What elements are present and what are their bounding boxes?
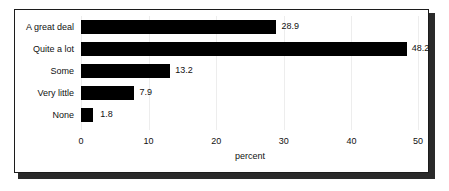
bar-row: 28.9 <box>81 16 419 38</box>
x-tick-label: 10 <box>144 136 154 146</box>
category-label: Some <box>0 64 74 78</box>
x-axis: 0 10 20 30 40 50 percent <box>81 130 419 160</box>
category-axis-labels: A great deal Quite a lot Some Very littl… <box>0 16 74 130</box>
bar <box>81 64 170 78</box>
bar-row: 1.8 <box>81 104 419 126</box>
bar <box>81 86 134 100</box>
bar <box>81 20 276 34</box>
bar-value-label: 28.9 <box>281 19 299 33</box>
x-tick-label: 40 <box>346 136 356 146</box>
bar-value-label: 1.8 <box>100 107 113 121</box>
bar-row: 48.2 <box>81 38 419 60</box>
bar-row: 13.2 <box>81 60 419 82</box>
category-label: A great deal <box>0 20 74 34</box>
x-tick-label: 0 <box>78 136 83 146</box>
category-label: None <box>0 108 74 122</box>
x-tick-label: 30 <box>279 136 289 146</box>
bar-value-label: 7.9 <box>139 85 152 99</box>
bar <box>81 108 93 122</box>
bar-chart-figure: A great deal Quite a lot Some Very littl… <box>0 0 449 191</box>
category-label: Quite a lot <box>0 42 74 56</box>
category-label: Very little <box>0 86 74 100</box>
chart-frame: A great deal Quite a lot Some Very littl… <box>14 9 429 173</box>
bar <box>81 42 407 56</box>
bar-value-label: 48.2 <box>412 41 430 55</box>
bar-value-label: 13.2 <box>175 63 193 77</box>
x-tick-label: 50 <box>413 136 423 146</box>
x-tick-label: 20 <box>211 136 221 146</box>
bar-row: 7.9 <box>81 82 419 104</box>
x-axis-title: percent <box>235 151 265 161</box>
plot-area: A great deal Quite a lot Some Very littl… <box>81 16 419 130</box>
